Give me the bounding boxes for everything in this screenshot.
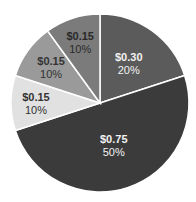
slice-percent-label: 20%: [118, 64, 140, 76]
slice-value-label: $0.15: [22, 91, 50, 103]
pie-chart: $0.3020%$0.7550%$0.1510%$0.1510%$0.1510%: [0, 0, 196, 202]
slice-percent-label: 10%: [25, 104, 47, 116]
slice-value-label: $0.15: [66, 30, 94, 42]
slice-value-label: $0.75: [100, 133, 128, 145]
slice-value-label: $0.30: [115, 51, 143, 63]
slice-percent-label: 50%: [103, 146, 125, 158]
slice-value-label: $0.15: [37, 55, 65, 67]
slice-percent-label: 10%: [40, 68, 62, 80]
slice-percent-label: 10%: [69, 43, 91, 55]
